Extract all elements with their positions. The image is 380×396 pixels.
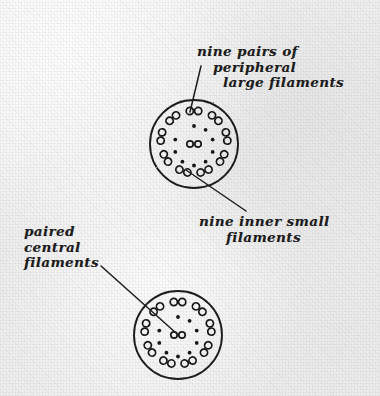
upper-inner-dots [173, 124, 214, 167]
label-nine-inner-small-filaments: nine inner small filaments [199, 214, 330, 245]
label-paired-central-line2: central [24, 240, 99, 256]
leader-nine-inner [186, 170, 246, 211]
label-nine-inner-line1: nine inner small [199, 214, 330, 230]
label-nine-pairs-peripheral-large-filaments: nine pairs of peripheral large filaments [197, 44, 344, 91]
label-paired-central-line1: paired [24, 224, 99, 240]
figure-canvas: nine pairs of peripheral large filaments… [0, 0, 380, 396]
label-paired-central-filaments: paired central filaments [24, 224, 99, 271]
upper-central-pair [187, 141, 201, 147]
leader-paired-central [101, 266, 176, 333]
label-paired-central-line3: filaments [24, 255, 99, 271]
label-nine-pairs-line1: nine pairs of [197, 44, 344, 60]
label-nine-pairs-line2: peripheral [197, 60, 344, 76]
lower-cross-section [134, 291, 222, 379]
label-nine-inner-line2: filaments [199, 230, 330, 246]
label-nine-pairs-line3: large filaments [197, 75, 344, 91]
lower-central-pair [171, 332, 185, 338]
